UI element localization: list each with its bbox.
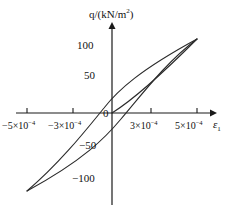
- plot-canvas: [0, 0, 231, 220]
- y-axis-title-close: ): [130, 8, 134, 20]
- y-tick-label-minus-100: −100: [72, 173, 95, 184]
- x-tick-exponent: −4: [196, 119, 203, 126]
- y-tick-label-50: 50: [84, 70, 95, 81]
- x-tick-mantissa: 5×10: [175, 120, 196, 131]
- y-tick-label-0: 0: [103, 108, 109, 119]
- x-axis-title: ε1: [213, 119, 221, 133]
- x-axis-title-subscript: 1: [217, 125, 221, 133]
- y-axis-title: q/(kN/m2): [89, 8, 133, 20]
- hysteresis-loop-figure: q/(kN/m2) ε1 100 50 0 −50 −100 −5×10−4 −…: [0, 0, 231, 220]
- x-tick-label-3e-4: 3×10−4: [130, 120, 158, 131]
- x-tick-label-5e-4: 5×10−4: [175, 120, 203, 131]
- x-tick-mantissa: −3×10: [48, 120, 74, 131]
- x-tick-exponent: −4: [28, 119, 35, 126]
- x-tick-mantissa: 3×10: [130, 120, 151, 131]
- x-tick-label-minus-3e-4: −3×10−4: [48, 120, 81, 131]
- y-axis-title-text: q/(kN/m: [89, 8, 126, 20]
- x-tick-exponent: −4: [151, 119, 158, 126]
- x-tick-label-minus-5e-4: −5×10−4: [2, 120, 35, 131]
- x-tick-mantissa: −5×10: [2, 120, 28, 131]
- y-tick-label-minus-50: −50: [79, 140, 96, 151]
- y-tick-label-100: 100: [77, 40, 94, 51]
- x-tick-exponent: −4: [74, 119, 81, 126]
